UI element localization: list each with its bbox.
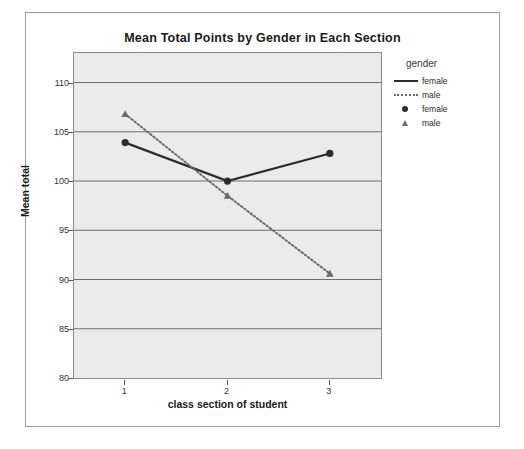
legend-entry-female-0[interactable]: female <box>392 74 492 87</box>
x-tick-label: 1 <box>112 386 136 396</box>
data-point-male-section-1 <box>121 110 129 117</box>
legend-entries: femalemalefemalemale <box>392 74 492 129</box>
y-tick-mark <box>68 230 73 231</box>
y-tick-label: 105 <box>39 127 69 137</box>
x-axis-ticks: 123 <box>73 380 382 398</box>
y-tick-mark <box>68 83 73 84</box>
data-series-layer <box>121 110 333 276</box>
chart-title: Mean Total Points by Gender in Each Sect… <box>25 31 500 45</box>
legend-label: male <box>422 117 440 129</box>
x-tick-mark <box>124 380 125 385</box>
plot-area <box>73 52 382 379</box>
y-tick-mark <box>68 329 73 330</box>
solid-line-icon <box>392 75 422 87</box>
y-tick-label: 95 <box>39 225 69 235</box>
y-tick-label: 90 <box>39 275 69 285</box>
y-axis-tick-labels: 80859095100105110 <box>37 52 69 379</box>
x-axis-title: class section of student <box>73 398 382 410</box>
dotted-line-icon <box>392 89 422 101</box>
gridlines <box>74 83 381 329</box>
y-tick-label: 85 <box>39 324 69 334</box>
x-tick-label: 3 <box>317 386 341 396</box>
y-tick-mark <box>68 132 73 133</box>
triangle-marker-icon-glyph <box>402 120 408 126</box>
y-tick-mark <box>68 378 73 379</box>
series-line-female-solid <box>125 143 330 181</box>
legend-entry-male-3[interactable]: male <box>392 116 492 129</box>
legend: gender femalemalefemalemale <box>392 58 492 130</box>
legend-title: gender <box>406 58 492 69</box>
legend-label: male <box>422 89 440 101</box>
y-axis-title: Mean total <box>19 146 31 236</box>
triangle-marker-icon <box>392 117 422 129</box>
legend-label: female <box>422 103 448 115</box>
y-tick-label: 110 <box>39 78 69 88</box>
legend-entry-female-2[interactable]: female <box>392 102 492 115</box>
circle-marker-icon-glyph <box>402 106 408 112</box>
y-tick-mark <box>68 280 73 281</box>
circle-marker-icon <box>392 103 422 115</box>
x-tick-label: 2 <box>215 386 239 396</box>
y-tick-label: 80 <box>39 373 69 383</box>
x-tick-mark <box>329 380 330 385</box>
legend-entry-male-1[interactable]: male <box>392 88 492 101</box>
x-tick-mark <box>227 380 228 385</box>
plot-svg <box>74 53 381 378</box>
data-point-female-section-2 <box>224 177 231 184</box>
data-point-female-section-1 <box>122 139 129 146</box>
dotted-line-icon-glyph <box>394 94 418 96</box>
solid-line-icon-glyph <box>394 80 418 82</box>
y-tick-label: 100 <box>39 176 69 186</box>
y-axis-tick-marks <box>68 52 74 379</box>
chart-screenshot: Mean Total Points by Gender in Each Sect… <box>0 0 524 449</box>
data-point-female-section-3 <box>326 150 333 157</box>
legend-label: female <box>422 75 448 87</box>
y-tick-mark <box>68 181 73 182</box>
